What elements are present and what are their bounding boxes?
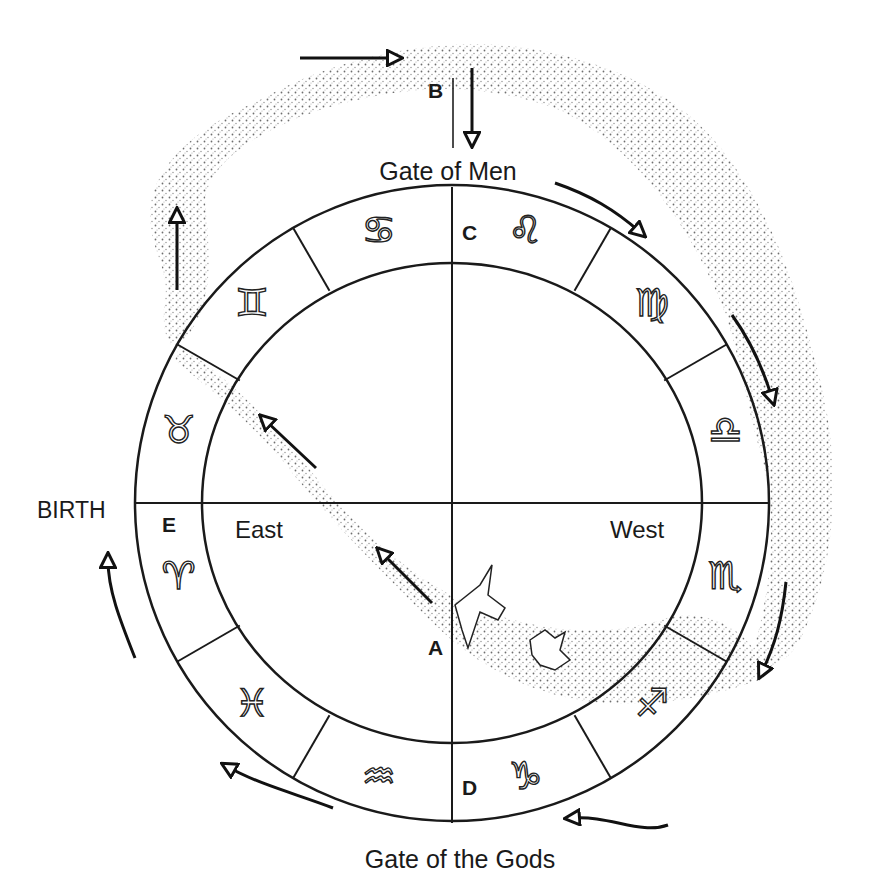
aquarius-icon: ♒ (362, 754, 396, 798)
point-c: C (462, 221, 477, 244)
arrow-bottom-right (572, 818, 668, 828)
point-d: D (462, 776, 477, 799)
sector-divider (575, 715, 611, 777)
west-label: West (610, 516, 665, 543)
sector-divider (177, 626, 239, 662)
zodiac-diagram: ♌♍♎♏♐♑♒♓♈♉♊♋ Gate of Men Gate of the God… (0, 0, 888, 893)
arrow-bottom-left (228, 767, 333, 808)
gate-of-men-label: Gate of Men (379, 157, 517, 185)
sector-divider (575, 228, 611, 290)
sector-divider (664, 345, 726, 381)
libra-icon: ♎ (708, 408, 742, 452)
point-e: E (162, 513, 176, 536)
sagittarius-icon: ♐ (635, 681, 669, 725)
pisces-icon: ♓ (235, 681, 269, 725)
arrow-left (108, 560, 135, 658)
gemini-icon: ♊ (235, 281, 269, 325)
gate-of-gods-label: Gate of the Gods (365, 845, 555, 873)
scorpio-icon: ♏ (708, 554, 742, 598)
east-label: East (235, 516, 283, 543)
point-b: B (428, 79, 443, 102)
sector-divider (294, 715, 330, 777)
point-a: A (428, 636, 443, 659)
leo-icon: ♌ (508, 208, 542, 252)
taurus-icon: ♉ (162, 408, 196, 452)
sector-divider (294, 228, 330, 290)
birth-label: BIRTH (37, 497, 106, 523)
virgo-icon: ♍ (635, 281, 669, 325)
aries-icon: ♈ (162, 554, 196, 598)
capricorn-icon: ♑ (508, 754, 542, 798)
cancer-icon: ♋ (362, 208, 396, 252)
